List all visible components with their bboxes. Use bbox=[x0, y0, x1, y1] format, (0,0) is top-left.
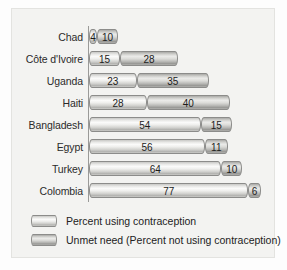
legend-swatch-unmet bbox=[31, 234, 57, 246]
bar-row: Côte d'Ivoire1528 bbox=[11, 48, 275, 70]
bar-value-label: 15 bbox=[202, 118, 231, 133]
bar-segment-using: 23 bbox=[89, 73, 137, 88]
bar-segment-using: 54 bbox=[89, 117, 201, 132]
bar-segment-unmet: 11 bbox=[205, 139, 228, 154]
category-label: Bangladesh bbox=[11, 114, 83, 136]
bar-value-label: 23 bbox=[90, 74, 136, 89]
bar-row: Haiti2840 bbox=[11, 92, 275, 114]
category-label: Haiti bbox=[11, 92, 83, 114]
bar-row: Uganda2335 bbox=[11, 70, 275, 92]
bar-value-label: 28 bbox=[90, 96, 146, 111]
bar-group: 776 bbox=[89, 183, 261, 199]
legend-label: Percent using contraception bbox=[66, 212, 196, 230]
bar-group: 2335 bbox=[89, 73, 209, 89]
bar-segment-unmet: 28 bbox=[120, 51, 178, 66]
legend-label: Unmet need (Percent not using contracept… bbox=[66, 231, 281, 249]
bar-segment-using: 4 bbox=[89, 29, 97, 44]
bar-group: 2840 bbox=[89, 95, 230, 111]
bar-segment-unmet: 35 bbox=[137, 73, 209, 88]
bar-segment-unmet: 15 bbox=[201, 117, 232, 132]
bar-row: Egypt5611 bbox=[11, 136, 275, 158]
bar-group: 5611 bbox=[89, 139, 228, 155]
bar-value-label: 6 bbox=[249, 184, 259, 199]
bar-row: Colombia776 bbox=[11, 180, 275, 202]
bar-group: 1528 bbox=[89, 51, 178, 67]
bar-value-label: 15 bbox=[90, 52, 119, 67]
bar-value-label: 64 bbox=[90, 162, 220, 177]
bar-segment-using: 64 bbox=[89, 161, 221, 176]
bar-segment-using: 77 bbox=[89, 183, 248, 198]
bar-value-label: 11 bbox=[206, 140, 227, 155]
bar-segment-using: 28 bbox=[89, 95, 147, 110]
legend-swatch-using bbox=[31, 215, 57, 227]
bar-row: Bangladesh5415 bbox=[11, 114, 275, 136]
category-label: Chad bbox=[11, 26, 83, 48]
category-label: Côte d'Ivoire bbox=[11, 48, 83, 70]
bar-value-label: 28 bbox=[121, 52, 177, 67]
chart-figure: Chad410Côte d'Ivoire1528Uganda2335Haiti2… bbox=[0, 0, 287, 270]
bar-segment-using: 56 bbox=[89, 139, 205, 154]
category-label: Egypt bbox=[11, 136, 83, 158]
bar-row: Turkey6410 bbox=[11, 158, 275, 180]
chart-legend: Percent using contraceptionUnmet need (P… bbox=[11, 206, 275, 256]
bar-row: Chad410 bbox=[11, 26, 275, 48]
bar-segment-unmet: 10 bbox=[221, 161, 242, 176]
bar-value-label: 40 bbox=[148, 96, 229, 111]
bar-segment-unmet: 6 bbox=[248, 183, 260, 198]
bar-value-label: 77 bbox=[90, 184, 247, 199]
bar-value-label: 35 bbox=[138, 74, 208, 89]
category-label: Uganda bbox=[11, 70, 83, 92]
bar-value-label: 4 bbox=[90, 30, 96, 45]
plot-area: Chad410Côte d'Ivoire1528Uganda2335Haiti2… bbox=[11, 14, 275, 200]
bar-value-label: 10 bbox=[98, 30, 117, 45]
bar-group: 5415 bbox=[89, 117, 232, 133]
bar-value-label: 56 bbox=[90, 140, 204, 155]
bar-value-label: 54 bbox=[90, 118, 200, 133]
bar-segment-unmet: 10 bbox=[97, 29, 118, 44]
category-label: Turkey bbox=[11, 158, 83, 180]
bar-group: 410 bbox=[89, 29, 118, 45]
category-label: Colombia bbox=[11, 180, 83, 202]
bar-segment-unmet: 40 bbox=[147, 95, 230, 110]
bar-segment-using: 15 bbox=[89, 51, 120, 66]
bar-group: 6410 bbox=[89, 161, 242, 177]
bar-value-label: 10 bbox=[222, 162, 241, 177]
